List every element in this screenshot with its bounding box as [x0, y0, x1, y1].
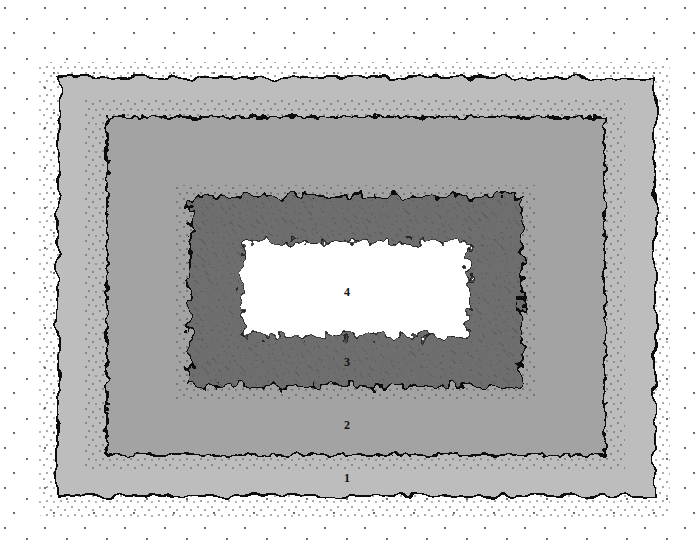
diagram-canvas [0, 0, 695, 549]
zone-diagram: 1 2 3 4 [0, 0, 695, 549]
zone-label-3: 3 [344, 355, 350, 370]
zone-label-1: 1 [344, 471, 350, 486]
zone-label-2: 2 [344, 418, 350, 433]
zone-label-4: 4 [344, 285, 350, 300]
zone-4 [243, 242, 469, 336]
